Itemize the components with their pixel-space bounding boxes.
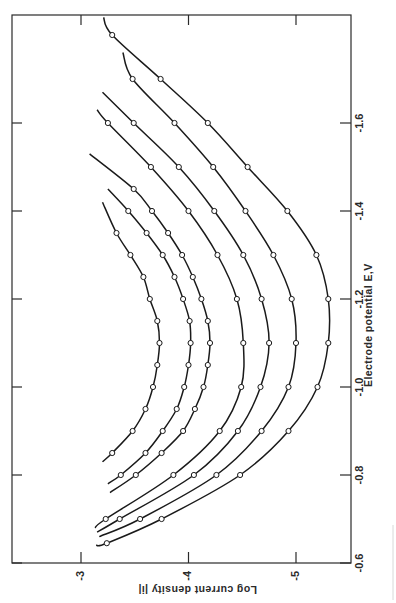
potential-tick-label: -0.8 <box>353 466 365 485</box>
data-point-marker <box>217 428 222 433</box>
data-point-marker <box>138 516 143 521</box>
data-point-marker <box>103 516 108 521</box>
potential-tick-label: -0.6 <box>353 554 365 573</box>
data-point-marker <box>143 450 148 455</box>
curve-3 <box>90 154 210 493</box>
data-point-marker <box>314 252 319 257</box>
data-point-marker <box>190 274 195 279</box>
data-point-marker <box>160 252 165 257</box>
data-point-marker <box>258 384 263 389</box>
data-point-marker <box>130 76 135 81</box>
data-point-marker <box>176 164 181 169</box>
data-point-marker <box>188 340 193 345</box>
data-point-marker <box>234 296 239 301</box>
polarization-chart: -0.6-0.8-1.0-1.2-1.4-1.6-3-4-5 Electrode… <box>0 0 396 603</box>
x-axis-title: Electrode potential E,V <box>362 263 374 387</box>
potential-tick-label: -1.4 <box>353 201 365 221</box>
data-point-marker <box>159 450 164 455</box>
data-point-marker <box>130 428 135 433</box>
data-point-marker <box>205 318 210 323</box>
curve-1 <box>103 202 160 462</box>
data-point-marker <box>110 32 115 37</box>
data-point-marker <box>205 120 210 125</box>
data-point-marker <box>172 120 177 125</box>
data-point-marker <box>174 406 179 411</box>
data-point-marker <box>243 208 248 213</box>
data-markers <box>103 32 331 545</box>
data-point-marker <box>110 450 115 455</box>
data-point-marker <box>166 230 171 235</box>
data-point-marker <box>235 428 240 433</box>
data-point-marker <box>148 164 153 169</box>
current-tick-label: -3 <box>74 571 86 581</box>
data-point-marker <box>286 428 291 433</box>
curve-4 <box>95 110 244 528</box>
data-point-marker <box>181 428 186 433</box>
data-point-marker <box>199 296 204 301</box>
data-point-marker <box>205 362 210 367</box>
data-point-marker <box>201 384 206 389</box>
data-point-marker <box>105 120 110 125</box>
data-point-marker <box>172 274 177 279</box>
data-point-marker <box>143 406 148 411</box>
data-point-marker <box>259 428 264 433</box>
data-point-marker <box>245 164 250 169</box>
data-point-marker <box>191 472 196 477</box>
data-point-marker <box>286 384 291 389</box>
current-tick-label: -5 <box>289 571 301 581</box>
data-point-marker <box>114 230 119 235</box>
data-point-marker <box>155 318 160 323</box>
data-point-marker <box>214 472 219 477</box>
data-point-marker <box>241 252 246 257</box>
data-point-marker <box>118 472 123 477</box>
data-point-marker <box>212 208 217 213</box>
data-point-marker <box>187 318 192 323</box>
curve-5 <box>97 92 269 532</box>
data-point-marker <box>104 541 109 546</box>
data-point-marker <box>186 208 191 213</box>
data-point-marker <box>241 340 246 345</box>
data-point-marker <box>141 274 146 279</box>
data-point-marker <box>126 208 131 213</box>
data-point-marker <box>147 296 152 301</box>
data-curves <box>90 17 330 545</box>
y-axis-title: Log current density |i| <box>138 584 257 596</box>
data-point-marker <box>158 76 163 81</box>
data-point-marker <box>326 340 331 345</box>
data-point-marker <box>149 208 154 213</box>
data-point-marker <box>182 384 187 389</box>
data-point-marker <box>181 296 186 301</box>
data-point-marker <box>186 362 191 367</box>
data-point-marker <box>271 252 276 257</box>
data-point-marker <box>259 296 264 301</box>
data-point-marker <box>160 428 165 433</box>
data-point-marker <box>211 164 216 169</box>
data-point-marker <box>215 252 220 257</box>
curve-6 <box>99 53 296 537</box>
data-point-marker <box>267 340 272 345</box>
data-point-marker <box>131 186 136 191</box>
data-point-marker <box>207 340 212 345</box>
data-point-marker <box>326 296 331 301</box>
data-point-marker <box>150 384 155 389</box>
data-point-marker <box>239 384 244 389</box>
data-point-marker <box>157 340 162 345</box>
data-point-marker <box>117 516 122 521</box>
data-point-marker <box>289 296 294 301</box>
data-point-marker <box>128 252 133 257</box>
data-point-marker <box>293 340 298 345</box>
current-tick-label: -4 <box>181 570 193 581</box>
data-point-marker <box>192 406 197 411</box>
data-point-marker <box>144 230 149 235</box>
data-point-marker <box>180 252 185 257</box>
potential-tick-label: -1.6 <box>353 114 365 133</box>
data-point-marker <box>159 516 164 521</box>
data-point-marker <box>133 472 138 477</box>
data-point-marker <box>155 362 160 367</box>
data-point-marker <box>171 472 176 477</box>
data-point-marker <box>238 472 243 477</box>
data-point-marker <box>285 208 290 213</box>
data-point-marker <box>315 384 320 389</box>
data-point-marker <box>131 120 136 125</box>
